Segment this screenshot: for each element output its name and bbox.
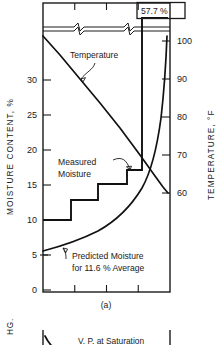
lower-panel-axis-fragment: HG. [6,318,15,335]
measured-moisture-annotation-line2: Moisture [58,169,91,179]
left-tick-label-20: 20 [27,145,37,155]
temperature-annotation: Temperature [70,50,118,60]
left-axis-title: MOISTURE CONTENT, % [6,98,15,215]
left-tick-label-15: 15 [27,180,37,190]
lower-panel-clipped-caption: V. P. at Saturation [78,336,144,345]
boxed-callout-value: 57.7 % [141,6,168,16]
right-axis-title: TEMPERATURE, °F [207,109,216,200]
right-tick-label-90: 90 [177,74,187,84]
measured-moisture-annotation-line1: Measured [58,157,96,167]
left-tick-label-5: 5 [32,250,37,260]
figure-root: MOISTURE CONTENT, % TEMPERATURE, °F 30 2… [0,0,221,345]
predicted-moisture-annotation-line2: for 11.6 % Average [72,263,145,273]
left-tick-label-10: 10 [27,215,37,225]
right-tick-label-70: 70 [177,150,187,160]
panel-label-a: (a) [101,300,112,310]
left-tick-label-0: 0 [32,285,37,295]
predicted-moisture-annotation-line1: Predicted Moisture [72,251,144,261]
right-tick-label-100: 100 [177,36,192,46]
right-tick-label-60: 60 [177,188,187,198]
chart-text-layer: MOISTURE CONTENT, % TEMPERATURE, °F 30 2… [0,0,221,345]
left-tick-label-25: 25 [27,110,37,120]
right-tick-label-80: 80 [177,112,187,122]
left-tick-label-30: 30 [27,75,37,85]
